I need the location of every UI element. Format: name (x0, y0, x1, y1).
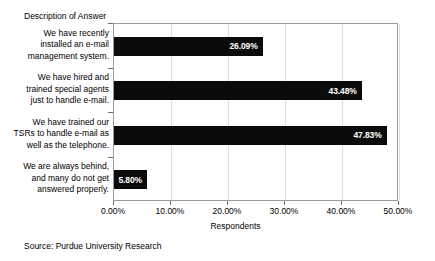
x-axis-tick (170, 201, 171, 205)
bar-row: 47.83% (114, 113, 397, 158)
category-label: We have hired and trained special agents… (13, 72, 109, 107)
x-axis-tick (113, 201, 114, 205)
x-axis-title-label: Respondents (210, 221, 260, 231)
x-axis-tick (341, 201, 342, 205)
bar-chart-figure: Description of Answer 26.09%43.48%47.83%… (0, 0, 435, 261)
bar-value-label: 43.48% (329, 86, 362, 96)
x-axis-tick-label: 0.00% (83, 206, 143, 216)
bar: 26.09% (114, 37, 263, 56)
y-axis-title: Description of Answer (24, 11, 106, 21)
bar: 47.83% (114, 126, 387, 145)
x-axis-tick-label: 30.00% (254, 206, 314, 216)
x-axis-tick-label: 40.00% (311, 206, 371, 216)
bar-row: 5.80% (114, 158, 397, 203)
y-axis-tick (108, 23, 113, 24)
x-axis-tick-label: 50.00% (368, 206, 428, 216)
x-axis-title: Respondents (0, 221, 435, 231)
category-label: We are always behind, and many do not ge… (13, 161, 109, 196)
bar: 43.48% (114, 81, 362, 100)
x-axis-tick-label: 10.00% (140, 206, 200, 216)
y-axis-tick (108, 112, 113, 113)
category-label: We have recently installed an e-mail man… (13, 28, 109, 63)
x-axis-tick-label: 20.00% (197, 206, 257, 216)
bar-series: 26.09%43.48%47.83%5.80% (114, 24, 397, 200)
gridline (399, 24, 400, 200)
bar-value-label: 5.80% (118, 175, 147, 185)
bar-value-label: 26.09% (229, 41, 262, 51)
bar-row: 26.09% (114, 24, 397, 69)
bar-row: 43.48% (114, 69, 397, 114)
x-axis-tick (398, 201, 399, 205)
x-axis-tick (284, 201, 285, 205)
x-axis-tick (227, 201, 228, 205)
bar: 5.80% (114, 170, 147, 189)
source-note: Source: Purdue University Research (24, 241, 161, 251)
plot-area: 26.09%43.48%47.83%5.80% (113, 23, 398, 201)
category-label: We have trained our TSRs to handle e-mai… (13, 117, 109, 152)
y-axis-tick (108, 157, 113, 158)
bar-value-label: 47.83% (353, 130, 386, 140)
y-axis-tick (108, 68, 113, 69)
